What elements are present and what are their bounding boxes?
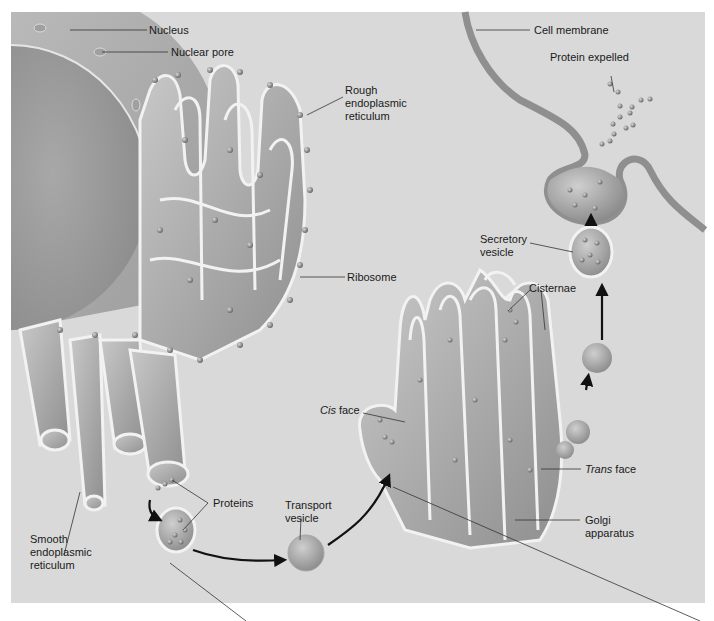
label-cis-face: Cis face	[320, 404, 360, 417]
label-smooth-er-line1: Smooth	[30, 533, 92, 546]
label-smooth-er-line3: reticulum	[30, 559, 92, 572]
nuclear-pore-icon	[34, 24, 46, 32]
label-trans-italic: Trans	[585, 463, 612, 475]
diagram-stage: Nucleus Nuclear pore Rough endoplasmic r…	[0, 0, 714, 621]
label-cis-italic: Cis	[320, 404, 336, 416]
er-vesicle	[156, 478, 196, 553]
label-rough-er-line3: reticulum	[345, 110, 407, 123]
label-nucleus: Nucleus	[149, 24, 189, 37]
label-rough-er: Rough endoplasmic reticulum	[345, 84, 407, 123]
transport-vesicle	[288, 535, 324, 571]
label-golgi-apparatus: Golgi apparatus	[585, 514, 634, 540]
label-ribosome: Ribosome	[347, 271, 397, 284]
label-nuclear-pore: Nuclear pore	[171, 46, 234, 59]
label-secretory-vesicle: Secretory vesicle	[480, 233, 527, 259]
label-transport-vesicle-line1: Transport	[285, 499, 332, 512]
label-golgi-line1: Golgi	[585, 514, 634, 527]
label-transport-vesicle-line2: vesicle	[285, 512, 332, 525]
label-cis-rest: face	[336, 404, 360, 416]
label-secretory-vesicle-line1: Secretory	[480, 233, 527, 246]
label-golgi-line2: apparatus	[585, 527, 634, 540]
label-secretory-vesicle-line2: vesicle	[480, 246, 527, 259]
label-trans-rest: face	[612, 463, 636, 475]
label-transport-vesicle: Transport vesicle	[285, 499, 332, 525]
label-smooth-er: Smooth endoplasmic reticulum	[30, 533, 92, 572]
cell-membrane	[465, 12, 705, 230]
label-smooth-er-line2: endoplasmic	[30, 546, 92, 559]
label-trans-face: Trans face	[585, 463, 636, 476]
label-rough-er-line1: Rough	[345, 84, 407, 97]
golgi-apparatus	[359, 270, 561, 548]
label-cisternae: Cisternae	[529, 282, 576, 295]
label-cell-membrane: Cell membrane	[534, 24, 609, 37]
secretory-vesicle	[570, 227, 612, 277]
trans-face-buds	[556, 343, 612, 459]
rough-er	[140, 66, 305, 360]
label-proteins: Proteins	[213, 497, 253, 510]
expelled-proteins	[600, 82, 653, 147]
label-protein-expelled: Protein expelled	[550, 51, 629, 64]
label-rough-er-line2: endoplasmic	[345, 97, 407, 110]
